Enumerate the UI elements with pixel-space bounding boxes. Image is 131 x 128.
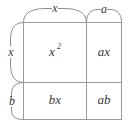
brace-top-x-label: x <box>51 1 58 15</box>
cell-top-left-base: x <box>48 44 55 59</box>
cell-top-left: x 2 <box>48 42 61 59</box>
cell-top-left-exponent: 2 <box>57 42 61 51</box>
cell-bottom-right-label: ab <box>98 92 112 107</box>
brace-left-b-label: b <box>9 94 15 108</box>
cell-bottom-left-label: bx <box>49 92 62 107</box>
brace-top-a-label: a <box>101 2 107 16</box>
diagram-canvas: x a x b x 2 ax bx ab <box>0 0 131 128</box>
area-model-diagram: x a x b x 2 ax bx ab <box>0 0 131 128</box>
brace-left-x-label: x <box>7 45 14 59</box>
cell-top-right-label: ax <box>98 44 111 59</box>
